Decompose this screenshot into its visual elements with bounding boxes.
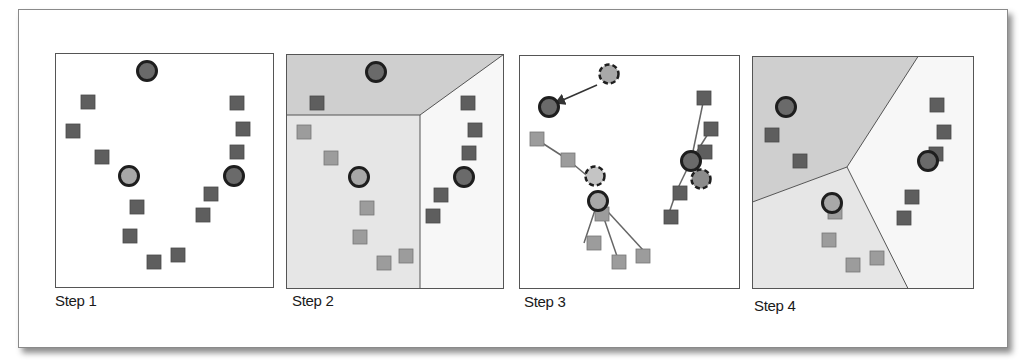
panel-step-3: Step 3 <box>519 55 740 289</box>
step-2-plot <box>286 54 504 289</box>
panel-step-4: Step 4 <box>752 56 974 289</box>
step-1-label: Step 1 <box>55 292 97 309</box>
step-4-label: Step 4 <box>754 297 796 314</box>
step-1-plot <box>55 53 274 288</box>
panel-step-2: Step 2 <box>286 54 504 289</box>
step-3-plot <box>519 55 740 289</box>
panel-step-1: Step 1 <box>55 53 274 288</box>
step-2-label: Step 2 <box>292 292 334 309</box>
step-3-label: Step 3 <box>524 293 566 310</box>
step-4-plot <box>752 56 974 289</box>
